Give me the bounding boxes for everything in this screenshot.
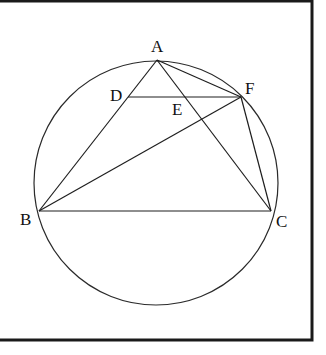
label-point-a: A xyxy=(151,37,164,56)
segment-ab xyxy=(39,60,157,211)
label-point-c: C xyxy=(276,212,287,231)
segments-group xyxy=(39,60,271,211)
label-point-b: B xyxy=(20,210,31,229)
label-point-d: D xyxy=(110,86,122,105)
geometry-diagram: A B C D E F xyxy=(0,0,326,355)
segment-bf xyxy=(39,97,241,211)
segment-af xyxy=(157,60,241,97)
label-point-e: E xyxy=(172,100,182,119)
label-point-f: F xyxy=(245,79,254,98)
point-labels-group: A B C D E F xyxy=(20,37,287,231)
